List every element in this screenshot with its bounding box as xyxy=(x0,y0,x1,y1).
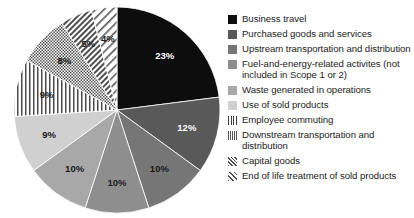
legend-item[interactable]: Capital goods xyxy=(228,155,414,166)
legend-item-label: End of life treatment of sold products xyxy=(242,170,396,181)
pie-slice-label: 8% xyxy=(58,55,72,66)
legend-swatch-icon xyxy=(228,86,237,95)
legend-swatch-icon xyxy=(228,30,237,39)
legend-swatch-icon xyxy=(228,116,237,125)
legend-item[interactable]: Employee commuting xyxy=(228,114,414,125)
legend-item-label: Business travel xyxy=(242,13,306,24)
legend-item-label: Use of sold products xyxy=(242,99,328,110)
pie-slice-label: 10% xyxy=(150,163,170,174)
chart-legend: Business travelPurchased goods and servi… xyxy=(228,13,414,185)
pie-slice-label: 12% xyxy=(177,122,197,133)
pie-slice-label: 9% xyxy=(40,89,54,100)
legend-item[interactable]: Use of sold products xyxy=(228,99,414,110)
legend-item-label: Employee commuting xyxy=(242,114,333,125)
legend-item[interactable]: Waste generated in operations xyxy=(228,84,414,95)
legend-swatch-icon xyxy=(228,172,237,181)
legend-item[interactable]: Downstream transportation and distributi… xyxy=(228,129,414,152)
legend-item[interactable]: Business travel xyxy=(228,13,414,24)
legend-item-label: Downstream transportation and distributi… xyxy=(242,129,414,152)
legend-item-label: Waste generated in operations xyxy=(242,84,371,95)
legend-swatch-icon xyxy=(228,45,237,54)
legend-swatch-icon xyxy=(228,101,237,110)
legend-item-label: Fuel-and-energy-related activites (not i… xyxy=(242,58,414,81)
pie-slice-label: 10% xyxy=(65,163,85,174)
legend-item-label: Capital goods xyxy=(242,155,300,166)
pie-chart-svg: 23%12%10%10%10%9%9%8%5%4% xyxy=(13,6,221,214)
legend-swatch-icon xyxy=(228,60,237,69)
legend-item[interactable]: Upstream transportation and distribution xyxy=(228,43,414,54)
legend-swatch-icon xyxy=(228,131,237,140)
legend-swatch-icon xyxy=(228,157,237,166)
pie-slice-label: 10% xyxy=(107,177,127,188)
legend-item[interactable]: Purchased goods and services xyxy=(228,28,414,39)
pie-chart-plot-area: 23%12%10%10%10%9%9%8%5%4% xyxy=(13,6,221,214)
pie-slice-label: 5% xyxy=(82,38,96,49)
legend-item[interactable]: End of life treatment of sold products xyxy=(228,170,414,181)
legend-swatch-icon xyxy=(228,15,237,24)
pie-slice-label: 4% xyxy=(101,33,115,44)
pie-slice-label: 23% xyxy=(155,50,175,61)
pie-slice-label: 9% xyxy=(42,129,56,140)
legend-item[interactable]: Fuel-and-energy-related activites (not i… xyxy=(228,58,414,81)
legend-item-label: Purchased goods and services xyxy=(242,28,372,39)
legend-item-label: Upstream transportation and distribution xyxy=(242,43,411,54)
pie-chart-figure: 23%12%10%10%10%9%9%8%5%4% Business trave… xyxy=(0,0,414,218)
